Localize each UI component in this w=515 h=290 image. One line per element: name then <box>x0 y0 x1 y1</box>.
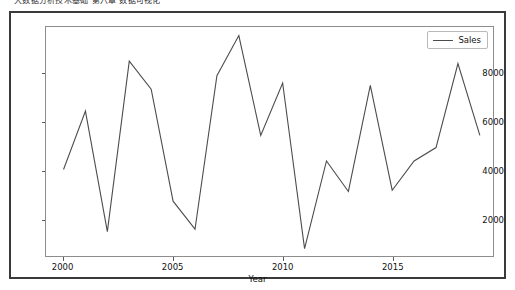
figure-canvas: Sales 2000400060008000 2000200520102015 … <box>11 13 504 277</box>
y-tick-mark <box>42 220 46 221</box>
chart-legend: Sales <box>427 31 488 49</box>
y-tick-label: 6000 <box>475 117 504 127</box>
y-tick-mark <box>42 73 46 74</box>
y-tick-label: 2000 <box>475 215 504 225</box>
x-tick-label: 2000 <box>52 262 74 272</box>
legend-label-sales: Sales <box>458 35 481 45</box>
y-tick-mark <box>42 171 46 172</box>
x-tick-label: 2005 <box>162 262 184 272</box>
x-tick-mark <box>283 257 284 261</box>
series-line-sales <box>64 36 480 249</box>
y-tick-label: 8000 <box>475 68 504 78</box>
x-tick-label: 2010 <box>272 262 294 272</box>
figure-window: Sales 2000400060008000 2000200520102015 … <box>9 11 506 279</box>
legend-line-swatch <box>433 40 453 41</box>
plot-area: Sales <box>45 26 494 257</box>
y-tick-label: 4000 <box>475 166 504 176</box>
x-tick-mark <box>63 257 64 261</box>
x-tick-label: 2015 <box>382 262 404 272</box>
y-tick-mark <box>42 122 46 123</box>
x-axis-label: Year <box>11 274 504 284</box>
x-tick-mark <box>393 257 394 261</box>
top-caption-text: 大数据分析技术基础 第六章 数据可视化 <box>14 0 214 4</box>
x-tick-mark <box>173 257 174 261</box>
line-chart-svg <box>46 27 493 256</box>
